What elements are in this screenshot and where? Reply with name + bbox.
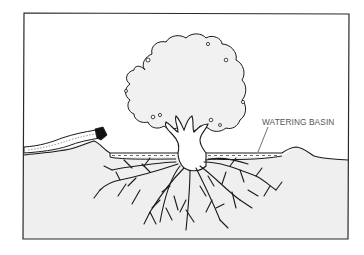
label-leader-line [258,127,268,152]
watering-basin-label: WATERING BASIN [262,117,334,127]
hose-nozzle [95,127,107,140]
diagram-canvas [0,0,364,255]
tree-canopy [126,34,246,132]
watering-basin-diagram: WATERING BASIN [0,0,364,255]
